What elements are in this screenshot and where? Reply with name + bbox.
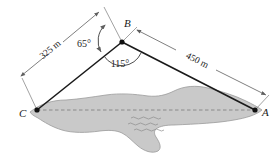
- ext-line-B: [104, 7, 122, 42]
- angle-label-65: 65°: [77, 38, 91, 49]
- vertex-dot-C: [34, 107, 39, 112]
- vertex-dot-A: [252, 107, 257, 112]
- ext-line-B2: [122, 27, 137, 42]
- dimension-label-450: 450 m: [184, 50, 210, 70]
- ext-line-C: [22, 78, 37, 110]
- dim-line-450-right: [216, 70, 266, 95]
- vertex-label-B: B: [124, 17, 131, 29]
- angle-arc-65: [98, 25, 105, 52]
- triangle-lake-diagram: 325 m 450 m 65° 115° A B C: [0, 0, 278, 156]
- figure-canvas: 325 m 450 m 65° 115° A B C: [0, 0, 278, 156]
- vertex-label-A: A: [261, 106, 269, 118]
- vertex-dot-B: [119, 39, 124, 44]
- dimension-label-325: 325 m: [38, 38, 63, 61]
- vertex-label-C: C: [19, 107, 27, 119]
- dim-line-450-left: [137, 30, 176, 50]
- angle-label-115: 115°: [111, 58, 130, 69]
